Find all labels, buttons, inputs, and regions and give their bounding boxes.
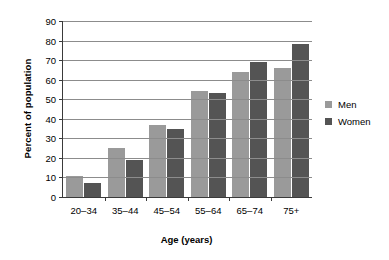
- gridline: [63, 99, 312, 100]
- bar-women-0: [84, 183, 101, 197]
- bar-group: [149, 21, 184, 197]
- chart-legend: MenWomen: [325, 100, 371, 133]
- y-axis-tick-label: 30: [26, 133, 56, 144]
- y-axis-tick: [59, 21, 63, 22]
- x-axis-tick-label: 55–64: [195, 205, 221, 216]
- bar-women-3: [209, 93, 226, 197]
- y-axis-tick-label: 40: [26, 113, 56, 124]
- x-axis-tick-label: 45–54: [154, 205, 180, 216]
- x-axis-tick: [188, 197, 189, 201]
- plot-area: 010203040506070809020–3435–4445–5455–646…: [62, 21, 312, 198]
- y-axis-tick: [59, 158, 63, 159]
- bar-men-1: [108, 148, 125, 197]
- gridline: [63, 158, 312, 159]
- x-axis-tick-label: 75+: [283, 205, 299, 216]
- gridline: [63, 177, 312, 178]
- y-axis-tick: [59, 99, 63, 100]
- x-axis-tick-label: 35–44: [112, 205, 138, 216]
- bar-men-3: [191, 91, 208, 197]
- y-axis-tick-label: 80: [26, 35, 56, 46]
- legend-swatch-women: [325, 118, 332, 125]
- bar-men-0: [66, 176, 83, 198]
- x-axis-tick-label: 20–34: [71, 205, 97, 216]
- y-axis-tick: [59, 177, 63, 178]
- gridline: [63, 60, 312, 61]
- x-axis-tick: [229, 197, 230, 201]
- x-axis-tick: [105, 197, 106, 201]
- legend-label-men: Men: [338, 100, 356, 110]
- y-axis-tick-label: 50: [26, 94, 56, 105]
- bar-group: [191, 21, 226, 197]
- y-axis-tick: [59, 119, 63, 120]
- y-axis-tick: [59, 60, 63, 61]
- x-axis-tick: [271, 197, 272, 201]
- legend-item-men: Men: [325, 100, 371, 110]
- y-axis-tick-label: 60: [26, 74, 56, 85]
- bar-chart: Percent of population 010203040506070809…: [0, 0, 389, 260]
- y-axis-tick-label: 90: [26, 16, 56, 27]
- y-axis-tick-label: 20: [26, 152, 56, 163]
- bar-group: [66, 21, 101, 197]
- legend-label-women: Women: [338, 117, 371, 127]
- bar-men-2: [149, 125, 166, 197]
- y-axis-tick: [59, 80, 63, 81]
- gridline: [63, 21, 312, 22]
- x-axis-tick: [146, 197, 147, 201]
- bar-women-5: [292, 44, 309, 197]
- legend-swatch-men: [325, 101, 332, 108]
- y-axis-tick-label: 0: [26, 192, 56, 203]
- gridline: [63, 80, 312, 81]
- bars-layer: [63, 21, 312, 197]
- y-axis-tick: [59, 138, 63, 139]
- x-axis-tick-label: 65–74: [237, 205, 263, 216]
- bar-group: [108, 21, 143, 197]
- gridline: [63, 119, 312, 120]
- y-axis-tick-label: 10: [26, 172, 56, 183]
- bar-group: [274, 21, 309, 197]
- x-axis-title: Age (years): [62, 234, 311, 245]
- bar-group: [232, 21, 267, 197]
- y-axis-tick: [59, 41, 63, 42]
- legend-item-women: Women: [325, 117, 371, 127]
- y-axis-tick-label: 70: [26, 55, 56, 66]
- gridline: [63, 138, 312, 139]
- gridline: [63, 41, 312, 42]
- y-axis-tick: [59, 197, 63, 198]
